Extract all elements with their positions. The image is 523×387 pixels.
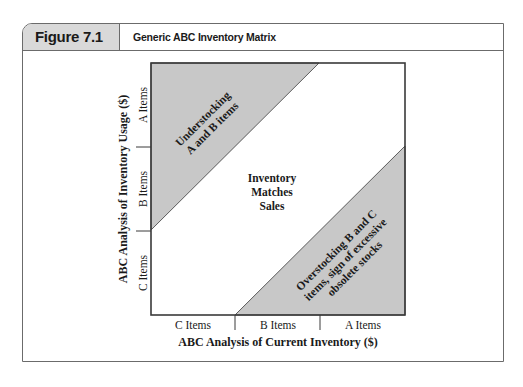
y-category-a: A Items — [137, 86, 149, 123]
svg-text:Sales: Sales — [260, 200, 285, 212]
svg-text:Matches: Matches — [251, 186, 293, 198]
x-category-b: B Items — [260, 319, 297, 331]
x-axis-title: ABC Analysis of Current Inventory ($) — [178, 335, 377, 349]
svg-text:Inventory: Inventory — [248, 172, 297, 185]
y-category-c: C Items — [137, 254, 149, 291]
x-category-a: A Items — [345, 319, 382, 331]
y-category-b: B Items — [137, 170, 149, 207]
abc-matrix-chart: A Items B Items C Items ABC Analysis of … — [0, 0, 523, 387]
y-axis-title: ABC Analysis of Inventory Usage ($) — [116, 95, 130, 283]
x-category-c: C Items — [175, 319, 212, 331]
